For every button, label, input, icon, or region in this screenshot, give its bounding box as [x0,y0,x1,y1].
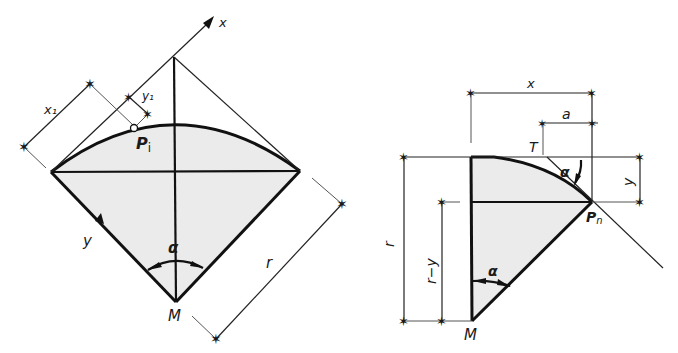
label-y1: y₁ [141,89,154,103]
r-tick-top: ✶ [336,196,348,212]
label-angle-alpha-bottom: α [488,263,498,279]
x1-dimension-line [24,84,90,147]
label-a: a [562,106,571,122]
a-tick-left: ✶ [537,117,547,131]
label-axis-x: x [218,15,227,30]
y-tick-bottom: ✶ [634,195,645,210]
figure-right: ✶ ✶ x ✶ ✶ a T α ✶ ✶ y Pn ✶ ✶ r ✶ ✶ [381,76,663,344]
label-angle-alpha-left: α [168,239,179,257]
point-pi-marker [131,125,138,132]
y-tick-top: ✶ [634,150,645,165]
label-y-right: y [620,177,636,187]
figure-left: x y ✶ ✶ x₁ ✶ ✶ y₁ Pi α M ✶ ✶ [18,15,348,347]
r-tick-bottom: ✶ [210,331,222,347]
x-tick-right: ✶ [586,86,597,101]
label-center-m-right: M [464,326,477,344]
x1-tick-start: ✶ [18,139,30,155]
r-tick-bottom-right: ✶ [398,314,409,329]
x-tick-left: ✶ [465,86,476,101]
sector-shading-right [471,157,592,321]
label-radius-right: r [381,240,397,247]
label-point-sub-n: n [596,215,602,226]
label-tangent-point-t: T [529,139,539,155]
y1-tick-start: ✶ [123,90,134,105]
x1-tick-end: ✶ [84,76,96,92]
r-tick-top-right: ✶ [398,150,409,165]
a-tick-right: ✶ [587,117,597,131]
label-x1: x₁ [43,102,57,117]
geometry-diagram: x y ✶ ✶ x₁ ✶ ✶ y₁ Pi α M ✶ ✶ [0,0,678,353]
label-center-m-left: M [168,307,181,325]
label-axis-y: y [82,232,93,250]
y1-tick-end: ✶ [142,107,153,122]
label-point-p: P [136,134,148,153]
label-radius-left: r [266,254,273,272]
label-angle-alpha-top: α [560,164,570,180]
r-y-tick-bottom: ✶ [436,314,447,329]
label-point-sub-i: i [148,141,151,155]
label-r-minus-y: r−y [423,258,439,284]
label-x-right: x [526,76,535,91]
radius-vertical [471,157,472,321]
label-point-pn: Pn [586,209,603,226]
r-y-tick-top: ✶ [436,195,447,210]
